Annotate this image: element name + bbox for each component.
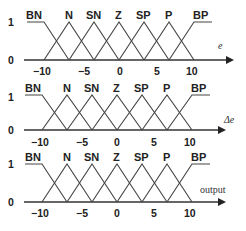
set-label-SP: SP [134, 82, 149, 94]
x-tick: 10 [184, 207, 196, 219]
mf-SN [67, 95, 117, 130]
x-tick: −10 [33, 65, 51, 77]
x-tick: −5 [76, 136, 88, 148]
set-label-BN: BN [25, 151, 41, 163]
set-label-N: N [63, 82, 71, 94]
x-tick: 5 [151, 207, 157, 219]
axis-label: e [218, 40, 223, 51]
mf-N [42, 95, 92, 130]
set-label-N: N [65, 9, 73, 21]
mf-Z [92, 164, 142, 202]
set-label-SP: SP [134, 151, 149, 163]
set-label-Z: Z [115, 9, 122, 21]
set-label-SN: SN [86, 9, 101, 21]
x-tick: 10 [184, 136, 196, 148]
axis-arrow-icon [226, 56, 234, 64]
set-label-SN: SN [84, 82, 99, 94]
y-tick-0: 0 [8, 124, 14, 136]
x-tick: 5 [151, 136, 157, 148]
mf-SP [117, 95, 167, 130]
axis-arrow-icon [218, 126, 226, 134]
mf-Z [92, 95, 142, 130]
set-label-N: N [63, 151, 71, 163]
set-label-BN: BN [25, 82, 41, 94]
mf-N [42, 164, 92, 202]
y-tick-0: 0 [8, 54, 14, 66]
set-label-BP: BP [193, 9, 208, 21]
mf-SN [69, 22, 119, 60]
x-tick: 0 [114, 207, 120, 219]
mf-SN [67, 164, 117, 202]
mf-SP [119, 22, 169, 60]
set-label-SP: SP [136, 9, 151, 21]
axis-label: Δe [223, 114, 235, 125]
set-label-SN: SN [84, 151, 99, 163]
set-label-BN: BN [26, 9, 42, 21]
x-tick: 5 [154, 65, 160, 77]
x-tick: 0 [114, 136, 120, 148]
x-tick: −5 [76, 207, 88, 219]
set-label-BP: BP [191, 82, 206, 94]
set-label-Z: Z [113, 151, 120, 163]
membership-functions-figure: 1 0 e BN N SN Z SP P BP −10 −5 0 5 10 1 … [0, 0, 246, 231]
x-tick: −5 [78, 65, 90, 77]
mf-Z [94, 22, 144, 60]
mf-P [142, 95, 192, 130]
set-label-P: P [163, 151, 170, 163]
y-tick-1: 1 [8, 158, 14, 170]
set-label-Z: Z [113, 82, 120, 94]
set-label-P: P [165, 9, 172, 21]
mf-P [142, 164, 192, 202]
x-tick: −10 [31, 207, 49, 219]
mf-N [44, 22, 94, 60]
set-label-P: P [163, 82, 170, 94]
set-label-BP: BP [191, 151, 206, 163]
y-tick-0: 0 [8, 196, 14, 208]
y-tick-1: 1 [8, 91, 14, 103]
panel-delta-e: 1 0 Δe BN N SN Z SP P BP −10 −5 0 5 10 [8, 82, 235, 148]
y-tick-1: 1 [8, 16, 14, 28]
x-tick: 10 [186, 65, 198, 77]
x-tick: 0 [117, 65, 123, 77]
x-tick: −10 [31, 136, 49, 148]
panel-e: 1 0 e BN N SN Z SP P BP −10 −5 0 5 10 [8, 9, 234, 77]
mf-P [144, 22, 194, 60]
panel-output: 1 0 output BN N SN Z SP P BP −10 −5 0 5 … [8, 151, 226, 219]
mf-SP [117, 164, 167, 202]
axis-arrow-icon [218, 198, 226, 206]
axis-label: output [200, 184, 226, 195]
